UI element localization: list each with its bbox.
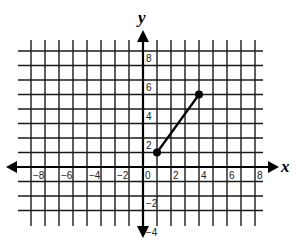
x-tick-label: −6 — [61, 170, 73, 181]
x-tick-label: 4 — [201, 170, 207, 181]
x-axis-left-arrow-icon — [6, 161, 17, 173]
y-axis-up-arrow-icon — [137, 30, 149, 42]
x-tick-label: −8 — [33, 170, 45, 181]
x-axis-label: x — [280, 157, 290, 176]
coordinate-plane: x y −8−6−4−2024688642−2−4 — [0, 0, 302, 249]
y-tick-label: 2 — [146, 140, 152, 151]
y-tick-label: 8 — [146, 53, 152, 64]
y-tick-label: 4 — [146, 111, 152, 122]
x-tick-label: 2 — [173, 170, 179, 181]
x-tick-label: −2 — [117, 170, 129, 181]
x-tick-label: −4 — [89, 170, 101, 181]
y-tick-label: −2 — [146, 198, 158, 209]
segment-start-point — [153, 149, 161, 157]
segment-end-point — [195, 91, 203, 99]
x-tick-label: 0 — [145, 170, 151, 181]
y-tick-label: 6 — [146, 82, 152, 93]
x-tick-label: 8 — [257, 170, 263, 181]
y-axis-label: y — [136, 8, 146, 27]
x-tick-label: 6 — [229, 170, 235, 181]
grid-lines — [18, 40, 263, 226]
y-tick-label: −4 — [146, 227, 158, 238]
x-axis-right-arrow-icon — [268, 161, 279, 173]
